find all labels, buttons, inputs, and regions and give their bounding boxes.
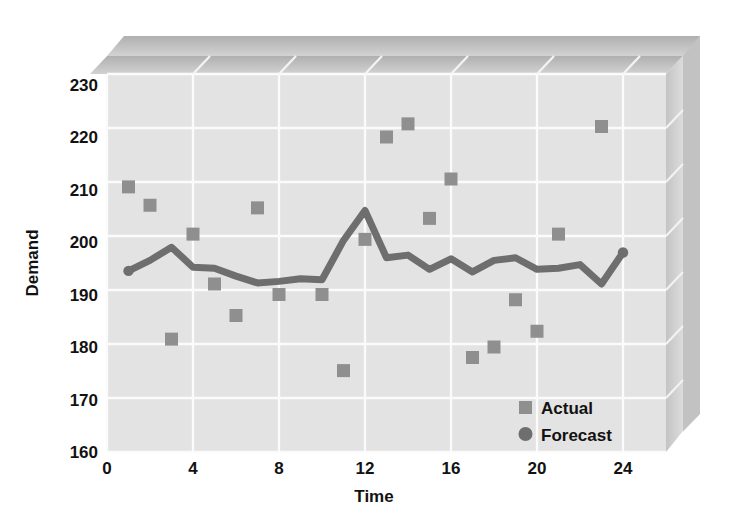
chart-right-outer-wall bbox=[683, 36, 700, 431]
actual-data-point bbox=[273, 288, 286, 301]
chart-canvas: 160170180190200210220230 04812162024 Tim… bbox=[0, 0, 748, 529]
y-tick-label: 160 bbox=[70, 443, 98, 462]
actual-data-point bbox=[402, 117, 415, 130]
actual-data-point bbox=[509, 293, 522, 306]
y-tick-label: 210 bbox=[70, 181, 98, 200]
actual-data-point bbox=[230, 309, 243, 322]
x-axis-title: Time bbox=[354, 487, 393, 506]
x-tick-label: 12 bbox=[356, 459, 375, 478]
actual-data-point bbox=[122, 180, 135, 193]
actual-data-point bbox=[359, 233, 372, 246]
y-tick-label: 220 bbox=[70, 128, 98, 147]
legend-marker-forecast-icon bbox=[519, 427, 533, 441]
actual-data-point bbox=[552, 228, 565, 241]
x-tick-label: 4 bbox=[188, 459, 198, 478]
y-axis-title: Demand bbox=[23, 229, 42, 296]
y-axis-tick-labels: 160170180190200210220230 bbox=[70, 76, 98, 463]
actual-data-point bbox=[165, 333, 178, 346]
x-tick-label: 16 bbox=[442, 459, 461, 478]
legend-marker-actual-icon bbox=[519, 401, 532, 414]
y-tick-label: 230 bbox=[70, 76, 98, 95]
actual-data-point bbox=[208, 278, 221, 291]
forecast-data-point bbox=[123, 266, 133, 276]
x-tick-label: 20 bbox=[528, 459, 547, 478]
chart-ceiling bbox=[107, 36, 700, 56]
actual-data-point bbox=[423, 212, 436, 225]
chart-inner-ceiling bbox=[90, 56, 683, 74]
actual-data-point bbox=[488, 341, 501, 354]
actual-data-point bbox=[337, 364, 350, 377]
actual-data-point bbox=[251, 201, 264, 214]
chart-figure: 160170180190200210220230 04812162024 Tim… bbox=[0, 0, 748, 529]
actual-data-point bbox=[445, 173, 458, 186]
actual-data-point bbox=[144, 199, 157, 212]
y-tick-label: 170 bbox=[70, 391, 98, 410]
y-tick-label: 200 bbox=[70, 233, 98, 252]
y-tick-label: 190 bbox=[70, 286, 98, 305]
legend-label-forecast: Forecast bbox=[541, 426, 612, 445]
x-tick-label: 24 bbox=[614, 459, 633, 478]
actual-data-point bbox=[595, 120, 608, 133]
x-axis-tick-labels: 04812162024 bbox=[102, 459, 633, 478]
forecast-data-point bbox=[618, 247, 628, 257]
chart-right-wall bbox=[666, 56, 683, 452]
actual-data-point bbox=[531, 325, 544, 338]
actual-data-point bbox=[187, 228, 200, 241]
x-tick-label: 0 bbox=[102, 459, 111, 478]
actual-data-point bbox=[316, 288, 329, 301]
x-tick-label: 8 bbox=[274, 459, 283, 478]
actual-data-point bbox=[466, 351, 479, 364]
y-tick-label: 180 bbox=[70, 338, 98, 357]
actual-data-point bbox=[380, 131, 393, 144]
legend-label-actual: Actual bbox=[541, 399, 593, 418]
